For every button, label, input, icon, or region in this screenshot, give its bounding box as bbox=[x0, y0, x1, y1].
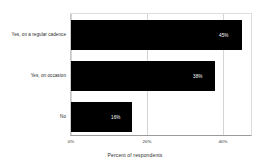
bar-no[interactable] bbox=[71, 102, 132, 132]
bar-value-label: 45% bbox=[219, 33, 229, 38]
xtick-label-40: 40% bbox=[219, 139, 228, 144]
bar-chart-figure: 45% 38% 16% Yes, on a regular cadence Ye… bbox=[0, 0, 270, 168]
plot-area: 45% 38% 16% bbox=[70, 13, 252, 136]
bar-value-label: 38% bbox=[193, 74, 203, 79]
category-label-no: No bbox=[60, 114, 66, 119]
xtick-label-20: 20% bbox=[143, 139, 152, 144]
bar-yes-regular-cadence[interactable] bbox=[71, 20, 242, 50]
category-label-yes-regular-cadence: Yes, on a regular cadence bbox=[12, 32, 66, 37]
xtick-label-0: 0% bbox=[68, 139, 74, 144]
bar-value-label: 16% bbox=[111, 115, 121, 120]
x-axis-title: Percent of respondents bbox=[0, 152, 270, 158]
category-label-yes-on-occasion: Yes, on occasion bbox=[31, 73, 66, 78]
